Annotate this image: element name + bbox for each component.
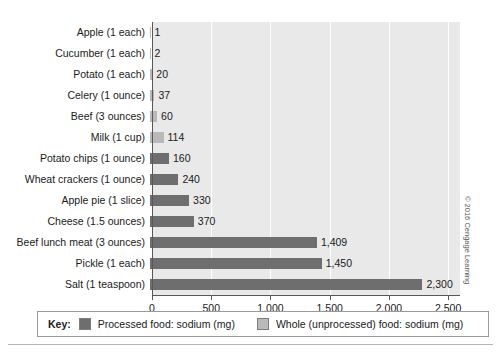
category-label: Salt (1 teaspoon) [0,274,150,295]
category-label: Celery (1 ounce) [0,85,150,106]
x-axis-tick-mark [211,295,212,300]
y-axis-line [152,22,153,295]
legend-label-processed: Processed food: sodium (mg) [98,318,235,330]
bar-value-label: 114 [168,132,185,143]
legend-entry-processed: Processed food: sodium (mg) [79,318,235,330]
legend-label-whole: Whole (unprocessed) food: sodium (mg) [276,318,463,330]
sodium-bar-chart-figure: Apple (1 each)1Cucumber (1 each)2Potato … [0,0,501,355]
bar-row: Milk (1 cup)114 [0,127,475,148]
bar-row: Wheat crackers (1 ounce)240 [0,169,475,190]
bar-processed [150,258,322,269]
bar-row: Beef lunch meat (3 ounces)1,409 [0,232,475,253]
bar-value-label: 2,300 [426,279,452,290]
bar-value-label: 20 [156,69,168,80]
bar-cell: 20 [150,64,475,85]
bar-cell: 240 [150,169,475,190]
category-label: Cucumber (1 each) [0,43,150,64]
category-label: Wheat crackers (1 ounce) [0,169,150,190]
x-axis-tick-mark [389,295,390,300]
bar-whole [150,27,151,38]
bar-cell: 60 [150,106,475,127]
bar-row: Cheese (1.5 ounces)370 [0,211,475,232]
bar-value-label: 370 [198,216,216,227]
bar-cell: 2,300 [150,274,475,295]
chart-legend: Key: Processed food: sodium (mg) Whole (… [37,311,489,337]
bar-value-label: 240 [182,174,200,185]
legend-entry-whole: Whole (unprocessed) food: sodium (mg) [257,318,463,330]
category-label: Beef (3 ounces) [0,106,150,127]
bar-row: Pickle (1 each)1,450 [0,253,475,274]
bar-row: Potato (1 each)20 [0,64,475,85]
bar-value-label: 2 [155,48,161,59]
x-axis-tick-mark [270,295,271,300]
legend-swatch-processed-icon [79,318,91,330]
category-label: Potato chips (1 ounce) [0,148,150,169]
bar-cell: 370 [150,211,475,232]
bar-value-label: 37 [158,90,170,101]
bar-row: Salt (1 teaspoon)2,300 [0,274,475,295]
bar-cell: 1,409 [150,232,475,253]
bar-processed [150,216,194,227]
bar-value-label: 1,409 [321,237,347,248]
category-label: Milk (1 cup) [0,127,150,148]
bar-processed [150,237,317,248]
bar-row: Beef (3 ounces)60 [0,106,475,127]
category-label: Apple pie (1 slice) [0,190,150,211]
bar-value-label: 160 [173,153,191,164]
bar-row: Apple pie (1 slice)330 [0,190,475,211]
x-axis-tick-mark [448,295,449,300]
bar-cell: 114 [150,127,475,148]
category-label: Cheese (1.5 ounces) [0,211,150,232]
bar-processed [150,279,422,290]
x-axis-tick-mark [152,295,153,300]
bar-whole [150,48,151,59]
bar-cell: 37 [150,85,475,106]
x-axis-line [152,295,460,296]
bar-value-label: 1 [155,27,161,38]
bar-row: Potato chips (1 ounce)160 [0,148,475,169]
legend-swatch-whole-icon [257,318,269,330]
bar-rows: Apple (1 each)1Cucumber (1 each)2Potato … [0,22,475,295]
bar-cell: 2 [150,43,475,64]
bar-value-label: 330 [193,195,211,206]
bar-cell: 1 [150,22,475,43]
bar-row: Apple (1 each)1 [0,22,475,43]
category-label: Potato (1 each) [0,64,150,85]
bar-value-label: 1,450 [326,258,352,269]
bar-row: Celery (1 ounce)37 [0,85,475,106]
category-label: Pickle (1 each) [0,253,150,274]
bar-cell: 160 [150,148,475,169]
bar-cell: 330 [150,190,475,211]
bar-processed [150,174,178,185]
category-label: Apple (1 each) [0,22,150,43]
bottom-divider [8,344,493,345]
bar-row: Cucumber (1 each)2 [0,43,475,64]
bar-processed [150,195,189,206]
bar-value-label: 60 [161,111,173,122]
legend-key-label: Key: [48,318,71,330]
chart-plot-region: Apple (1 each)1Cucumber (1 each)2Potato … [0,14,501,304]
category-label: Beef lunch meat (3 ounces) [0,232,150,253]
x-axis-tick-mark [330,295,331,300]
bar-cell: 1,450 [150,253,475,274]
